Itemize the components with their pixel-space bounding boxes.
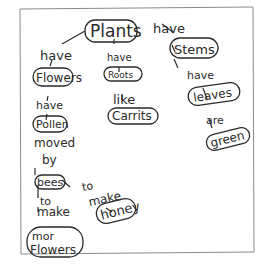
link-bees-more-2: make: [37, 205, 70, 219]
node-flowers: Flowers: [36, 71, 82, 85]
link-pollen-bees-1: moved: [34, 136, 75, 150]
node-bees: bees: [37, 176, 64, 189]
link-leaves-green: are: [206, 114, 224, 127]
node-roots: Roots: [108, 70, 133, 80]
link-stems-leaves: have: [187, 69, 214, 82]
node-pollen: Pollen: [36, 118, 69, 131]
node-carrots: Carrits: [112, 109, 152, 123]
link-plants-flowers: have: [40, 48, 72, 63]
concept-map: Plants Flowers Roots Stems Pollen Carrit…: [0, 0, 272, 274]
node-plants: Plants: [90, 21, 142, 41]
link-plants-stems: have: [153, 21, 185, 36]
node-stems: Stems: [174, 42, 215, 57]
link-flowers-pollen: have: [36, 99, 63, 112]
link-roots-carrots: like: [113, 92, 135, 107]
link-plants-roots: have: [107, 52, 132, 63]
link-pollen-bees-2: by: [42, 153, 57, 167]
node-more-flowers-line2: Flowers: [30, 243, 76, 257]
node-more-flowers-line1: mor: [32, 230, 54, 243]
link-bees-honey-1: to: [81, 179, 94, 194]
